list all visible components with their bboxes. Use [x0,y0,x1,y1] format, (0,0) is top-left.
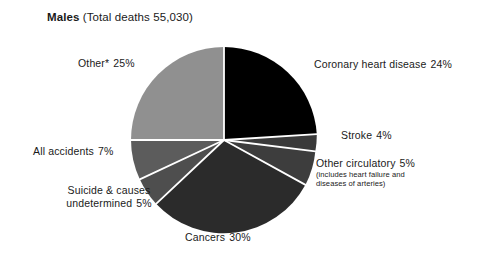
slice-label-text: Cancers [185,231,225,243]
slice-label-other-circulatory: Other circulatory5% (includes heart fail… [316,157,415,188]
slice-label-percent: 7% [98,145,113,157]
pie-chart-figure: Males (Total deaths 55,030) [0,0,479,263]
slice-label-text: All accidents [33,145,94,157]
slice-label-note-line-2: diseases of arteries) [316,179,415,188]
slice-label-main: Other circulatory5% [316,157,415,170]
pie-graphic [0,0,479,263]
pie-slice-other[interactable] [131,47,224,140]
slice-label-percent: 4% [376,129,391,141]
slice-label-stroke: Stroke4% [341,129,392,142]
slice-label-percent: 25% [113,57,134,69]
slice-label-text: Other* [78,57,109,69]
slice-label-percent: 30% [229,231,250,243]
slice-label-line-1: Suicide & causes [44,184,174,197]
slice-label-text: undetermined [66,197,132,209]
slice-label-all-accidents: All accidents7% [33,145,113,158]
slice-label-percent: 5% [136,197,151,209]
slice-label-text: Coronary heart disease [314,58,426,70]
slice-label-line-2: undetermined5% [44,197,174,210]
slice-label-coronary-heart-disease: Coronary heart disease24% [314,58,452,71]
slice-label-other: Other*25% [78,57,135,70]
slice-label-note-line-1: (includes heart failure and [316,170,415,179]
slice-label-cancers: Cancers30% [185,231,251,244]
slice-label-text: Stroke [341,129,372,141]
pie-slice-coronary-heart-disease[interactable] [224,47,317,140]
slice-label-percent: 24% [430,58,451,70]
slice-label-suicide-causes-undetermined: Suicide & causes undetermined5% [44,184,174,209]
slice-label-text: Other circulatory [316,157,396,169]
slice-label-percent: 5% [400,157,415,169]
